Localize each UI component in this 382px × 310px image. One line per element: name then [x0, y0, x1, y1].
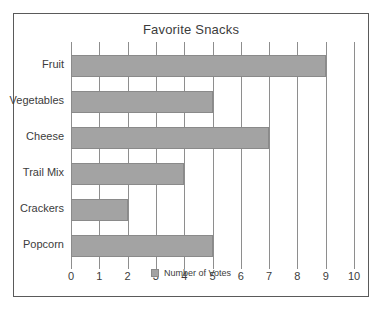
category-label-trail-mix: Trail Mix [23, 166, 64, 178]
category-label-popcorn: Popcorn [23, 238, 64, 250]
bar-cheese [71, 127, 269, 149]
legend-label-number-of-votes: Number of Votes [164, 268, 231, 278]
bar-row: Cheese [71, 120, 354, 156]
bar-row: Crackers [71, 192, 354, 228]
bar-crackers [71, 199, 128, 221]
category-label-cheese: Cheese [26, 130, 64, 142]
bar-row: Vegetables [71, 84, 354, 120]
bar-trail-mix [71, 163, 184, 185]
category-label-fruit: Fruit [42, 58, 64, 70]
chart-frame: Favorite Snacks FruitVegetablesCheeseTra… [13, 13, 369, 297]
chart-legend: Number of Votes [14, 268, 368, 278]
bar-fruit [71, 55, 326, 77]
bar-vegetables [71, 91, 213, 113]
bar-row: Trail Mix [71, 156, 354, 192]
category-label-vegetables: Vegetables [10, 94, 64, 106]
bar-popcorn [71, 235, 213, 257]
chart-title: Favorite Snacks [14, 22, 368, 37]
bar-row: Popcorn [71, 228, 354, 264]
plot-area: FruitVegetablesCheeseTrail MixCrackersPo… [71, 48, 354, 264]
bar-row: Fruit [71, 48, 354, 84]
category-label-crackers: Crackers [20, 202, 64, 214]
legend-swatch-number-of-votes [151, 269, 159, 277]
gridline-10 [354, 42, 355, 269]
